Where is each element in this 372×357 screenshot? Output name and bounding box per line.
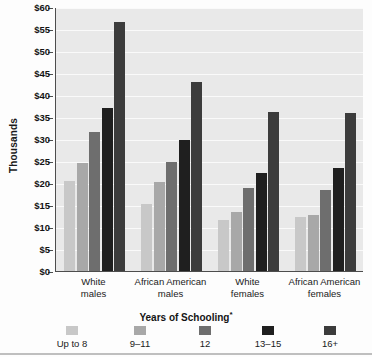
chart-figure: Thousands $60$55$50$45$40$35$30$25$20$15… [0, 0, 372, 357]
bar-group [218, 8, 279, 271]
bottom-rule [0, 353, 372, 355]
y-axis-tick-label: $45 [10, 69, 50, 78]
bar [243, 188, 254, 271]
bar [231, 212, 242, 271]
y-axis-tick-label: $5 [10, 245, 50, 254]
bar [64, 181, 75, 271]
bar [179, 140, 190, 271]
y-axis-tick-label: $30 [10, 135, 50, 144]
legend-swatch [262, 326, 274, 335]
legend-label: 12 [175, 338, 235, 349]
legend-label: Up to 8 [42, 338, 102, 349]
bar-group [64, 8, 125, 271]
legend-item[interactable]: 12 [175, 326, 235, 349]
legend-swatch [324, 326, 336, 335]
bar [268, 112, 279, 271]
x-axis-category-label: African Americanfemales [278, 276, 371, 299]
bar [77, 163, 88, 271]
bar [191, 82, 202, 271]
y-axis-tick-label: $15 [10, 201, 50, 210]
x-axis-title-footnote-marker: * [229, 310, 232, 319]
x-axis-category-label-line: African American [278, 276, 371, 288]
bar [256, 173, 267, 271]
bar [333, 168, 344, 271]
y-axis-tick-label: $20 [10, 179, 50, 188]
bar [166, 162, 177, 271]
bar [218, 220, 229, 271]
bar [320, 190, 331, 271]
bar [345, 113, 356, 271]
legend-label: 9–11 [110, 338, 170, 349]
legend-item[interactable]: 13–15 [238, 326, 298, 349]
y-axis-tick-label: $55 [10, 25, 50, 34]
bar [295, 217, 306, 271]
y-axis-tick-label: $0 [10, 267, 50, 276]
bar-group [141, 8, 202, 271]
y-axis-tick-label: $10 [10, 223, 50, 232]
y-axis-tick-label: $35 [10, 113, 50, 122]
y-axis-tick-label: $25 [10, 157, 50, 166]
plot-inner [56, 8, 363, 271]
y-axis-tick-label: $40 [10, 91, 50, 100]
bar [308, 215, 319, 271]
legend-item[interactable]: Up to 8 [42, 326, 102, 349]
x-axis-category-label-line: females [278, 288, 371, 300]
legend-label: 16+ [300, 338, 360, 349]
plot-area [55, 8, 363, 272]
bar [141, 204, 152, 271]
bar [154, 182, 165, 271]
bar [102, 108, 113, 271]
legend-swatch [199, 326, 211, 335]
bar-group [295, 8, 356, 271]
x-axis-title-text: Years of Schooling [139, 312, 229, 323]
y-axis-tick-label: $50 [10, 47, 50, 56]
legend-label: 13–15 [238, 338, 298, 349]
y-axis-tick-label: $60 [10, 3, 50, 12]
legend-swatch [134, 326, 146, 335]
bar [114, 22, 125, 271]
legend-item[interactable]: 16+ [300, 326, 360, 349]
legend-item[interactable]: 9–11 [110, 326, 170, 349]
chart-legend: Up to 89–111213–1516+ [0, 326, 372, 356]
legend-swatch [66, 326, 78, 335]
x-axis-title: Years of Schooling* [0, 310, 372, 323]
bar [89, 132, 100, 271]
